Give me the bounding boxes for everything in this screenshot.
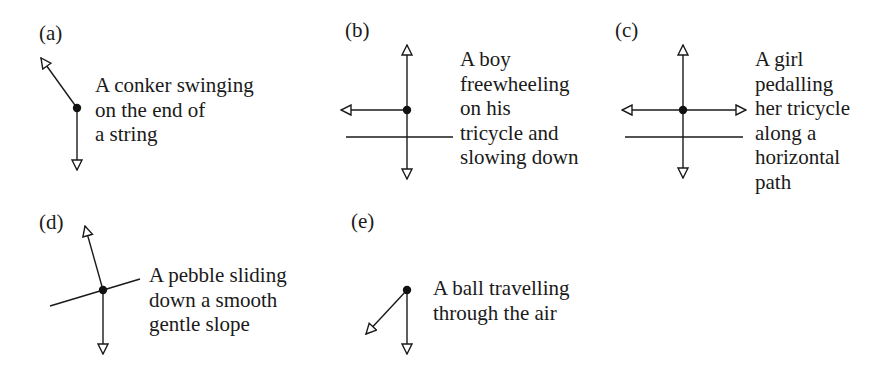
caption-line: freewheeling [460, 72, 578, 97]
caption-line: her tricycle [755, 96, 850, 121]
caption-line: horizontal [755, 145, 850, 170]
caption-line: tricycle and [460, 121, 578, 146]
caption-line: A conker swinging [95, 73, 254, 98]
caption-line: on his [460, 96, 578, 121]
diagram-b-forces [341, 45, 453, 179]
caption-line: on the end of [95, 98, 254, 123]
diagram-label-b: (b) [345, 18, 370, 42]
diagram-label-c: (c) [615, 18, 638, 42]
caption-line: down a smooth [149, 288, 287, 313]
point-mass-c [679, 106, 687, 114]
caption-line: A ball travelling [433, 276, 569, 301]
point-mass-e [403, 286, 411, 294]
caption-line: A pebble sliding [149, 263, 287, 288]
diagram-a-forces [41, 58, 77, 170]
diagram-d-forces [50, 226, 140, 354]
caption-line: path [755, 170, 850, 195]
caption-line: A girl [755, 47, 850, 72]
caption-line: A boy [460, 47, 578, 72]
normal-reaction-arrow [85, 226, 103, 290]
caption-e: A ball travelling through the air [433, 276, 569, 325]
caption-a: A conker swinging on the end of a string [95, 73, 254, 147]
diagram-label-e: (e) [351, 209, 374, 233]
slope-line [50, 279, 140, 306]
tension-arrow [41, 58, 77, 108]
caption-c: A girl pedalling her tricycle along a ho… [755, 47, 850, 194]
caption-line: gentle slope [149, 312, 287, 337]
point-mass-a [73, 104, 81, 112]
diagram-label-a: (a) [39, 21, 62, 45]
point-mass-d [99, 286, 107, 294]
point-mass-b [403, 106, 411, 114]
diagram-e-forces [366, 290, 407, 354]
caption-d: A pebble sliding down a smooth gentle sl… [149, 263, 287, 337]
caption-line: slowing down [460, 145, 578, 170]
caption-line: a string [95, 122, 254, 147]
caption-line: through the air [433, 301, 569, 326]
caption-line: pedalling [755, 72, 850, 97]
caption-line: along a [755, 121, 850, 146]
diagram-label-d: (d) [39, 210, 64, 234]
caption-b: A boy freewheeling on his tricycle and s… [460, 47, 578, 170]
air-resistance-arrow [366, 290, 407, 334]
